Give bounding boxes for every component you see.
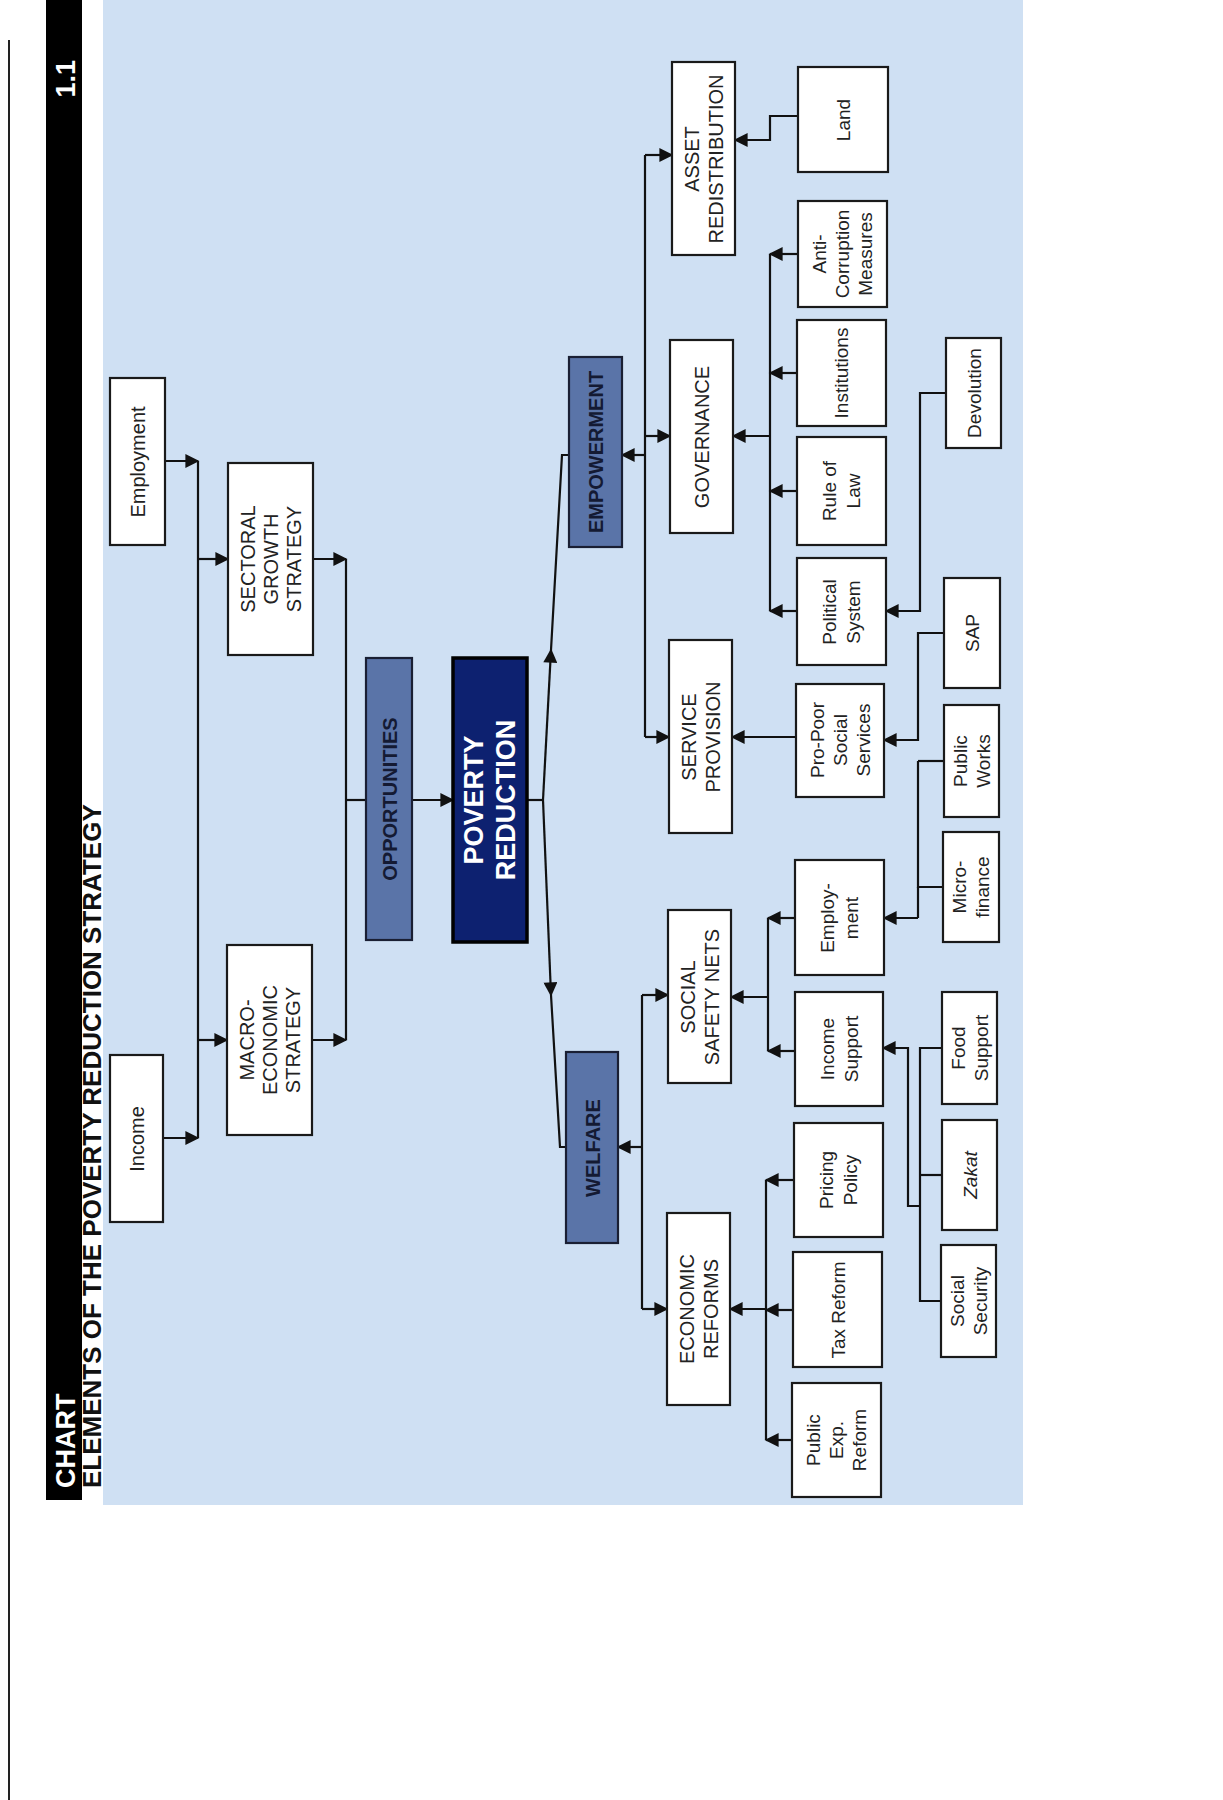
node-asset-redistribution: ASSET REDISTRIBUTION [672, 62, 735, 255]
svg-text:Micro-: Micro- [949, 861, 970, 914]
node-microfinance: Micro- finance [943, 832, 999, 942]
node-zakat: Zakat [942, 1120, 997, 1230]
svg-text:Reform: Reform [849, 1409, 870, 1471]
node-income-input: Income [110, 1055, 163, 1222]
svg-text:Pricing: Pricing [816, 1151, 837, 1209]
node-public-exp-reform: Public Exp. Reform [792, 1383, 881, 1497]
svg-text:GROWTH: GROWTH [260, 513, 282, 604]
svg-text:Income: Income [817, 1018, 838, 1080]
svg-text:Works: Works [973, 734, 994, 787]
svg-text:ment: ment [841, 896, 862, 939]
node-tax-reform: Tax Reform [793, 1252, 882, 1367]
svg-text:WELFARE: WELFARE [582, 1099, 604, 1197]
node-macroeconomic-strategy: MACRO- ECONOMIC STRATEGY [227, 945, 312, 1135]
svg-text:OPPORTUNITIES: OPPORTUNITIES [379, 717, 401, 880]
svg-text:POVERTY: POVERTY [459, 735, 489, 864]
svg-text:Food: Food [948, 1026, 969, 1069]
node-land: Land [798, 67, 888, 172]
node-empowerment: EMPOWERMENT [569, 357, 622, 547]
node-political-system: Political System [797, 558, 886, 665]
chart-number: 1.1 [51, 60, 81, 98]
svg-text:Political: Political [819, 579, 840, 644]
node-institutions: Institutions [797, 320, 886, 426]
chart-title: ELEMENTS OF THE POVERTY REDUCTION STRATE… [77, 804, 107, 1488]
svg-text:SAFETY NETS: SAFETY NETS [701, 929, 723, 1065]
svg-text:Pro-Poor: Pro-Poor [807, 701, 828, 778]
node-social-security: Social Security [941, 1245, 996, 1357]
svg-text:ECONOMIC: ECONOMIC [676, 1254, 698, 1364]
svg-text:SOCIAL: SOCIAL [677, 960, 699, 1033]
svg-text:Devolution: Devolution [964, 348, 985, 438]
node-poverty-reduction: POVERTY REDUCTION [453, 658, 527, 942]
svg-text:Support: Support [971, 1014, 992, 1081]
node-food-support: Food Support [942, 992, 997, 1104]
svg-text:STRATEGY: STRATEGY [283, 506, 305, 612]
svg-text:Public: Public [803, 1414, 824, 1466]
svg-text:Institutions: Institutions [831, 328, 852, 419]
node-employment-input: Employment [110, 378, 165, 545]
svg-text:GOVERNANCE: GOVERNANCE [691, 366, 713, 508]
svg-text:Land: Land [833, 99, 854, 141]
svg-text:Measures: Measures [855, 212, 876, 295]
node-welfare: WELFARE [566, 1052, 618, 1243]
svg-text:STRATEGY: STRATEGY [282, 987, 304, 1093]
node-opportunities: OPPORTUNITIES [366, 658, 412, 940]
node-sectoral-growth-strategy: SECTORAL GROWTH STRATEGY [228, 463, 313, 655]
svg-text:Law: Law [843, 473, 864, 508]
svg-text:SECTORAL: SECTORAL [237, 505, 259, 612]
svg-text:Exp.: Exp. [826, 1421, 847, 1459]
svg-text:Public: Public [950, 735, 971, 787]
node-service-provision: SERVICE PROVISION [669, 640, 732, 833]
node-social-safety-nets: SOCIAL SAFETY NETS [668, 910, 731, 1083]
node-devolution: Devolution [946, 338, 1001, 448]
svg-text:REFORMS: REFORMS [700, 1259, 722, 1359]
node-governance: GOVERNANCE [670, 340, 733, 533]
svg-text:Tax Reform: Tax Reform [828, 1261, 849, 1358]
svg-text:SAP: SAP [962, 614, 983, 652]
node-employment-safety-net: Employ- ment [795, 860, 884, 975]
svg-text:Policy: Policy [840, 1154, 861, 1205]
svg-text:Support: Support [841, 1015, 862, 1082]
node-anti-corruption-measures: Anti- Corruption Measures [798, 201, 887, 307]
node-pro-poor-social-services: Pro-Poor Social Services [796, 684, 884, 797]
svg-text:System: System [843, 580, 864, 643]
svg-text:Zakat: Zakat [960, 1151, 981, 1200]
svg-text:REDISTRIBUTION: REDISTRIBUTION [705, 75, 727, 244]
svg-text:Social: Social [830, 714, 851, 766]
diagram-stage: CHART 1.1 ELEMENTS OF THE POVERTY REDUCT… [0, 0, 1223, 1800]
svg-text:MACRO-: MACRO- [236, 999, 258, 1080]
node-pricing-policy: Pricing Policy [794, 1123, 883, 1237]
node-public-works: Public Works [944, 705, 999, 817]
node-sap: SAP [944, 578, 1000, 688]
node-rule-of-law: Rule of Law [797, 437, 886, 545]
svg-text:Employ-: Employ- [817, 883, 838, 953]
node-income-support: Income Support [795, 992, 883, 1106]
svg-text:Corruption: Corruption [832, 210, 853, 299]
svg-text:finance: finance [972, 856, 993, 917]
svg-text:PROVISION: PROVISION [702, 681, 724, 792]
svg-text:ECONOMIC: ECONOMIC [259, 985, 281, 1095]
svg-text:Rule of: Rule of [819, 460, 840, 521]
svg-text:Social: Social [947, 1275, 968, 1327]
svg-text:SERVICE: SERVICE [678, 693, 700, 780]
svg-text:Employment: Employment [127, 406, 149, 518]
svg-text:Security: Security [970, 1266, 991, 1335]
svg-text:Income: Income [126, 1106, 148, 1172]
svg-text:EMPOWERMENT: EMPOWERMENT [585, 371, 607, 533]
svg-text:REDUCTION: REDUCTION [491, 720, 521, 881]
svg-text:Anti-: Anti- [809, 234, 830, 273]
svg-text:Services: Services [853, 704, 874, 777]
node-economic-reforms: ECONOMIC REFORMS [667, 1213, 730, 1405]
svg-text:ASSET: ASSET [681, 126, 703, 192]
